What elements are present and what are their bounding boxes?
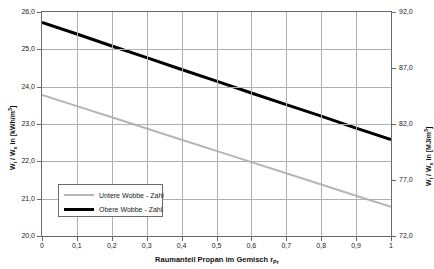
gridline-horizontal xyxy=(42,49,391,50)
tick-mark-left xyxy=(37,161,41,162)
tick-mark-right xyxy=(392,180,396,181)
right-axis-title-sup: 3 xyxy=(423,129,429,132)
legend-label-untere: Untere Wobbe - Zahl xyxy=(99,192,164,199)
tick-mark-x xyxy=(321,237,322,241)
left-axis-title-sup: 3 xyxy=(7,108,13,111)
right-axis-title-w: W xyxy=(425,179,432,186)
tick-mark-left xyxy=(37,87,41,88)
right-axis-title-sub-s: s xyxy=(428,162,434,165)
tick-mark-x xyxy=(112,237,113,241)
tick-mark-left xyxy=(37,199,41,200)
x-axis-tick-label: 0,1 xyxy=(62,242,92,250)
tick-mark-x xyxy=(251,237,252,241)
gray-line-swatch xyxy=(64,194,94,196)
y-axis-left-tick-label: 20,0 xyxy=(8,232,35,240)
gridline-horizontal xyxy=(42,161,391,162)
x-axis-tick-label: 0,6 xyxy=(236,242,266,250)
tick-mark-right xyxy=(392,236,396,237)
y-axis-right-tick-label: 82,0 xyxy=(399,120,427,128)
right-axis-title-mid: / W xyxy=(425,165,432,177)
tick-mark-x xyxy=(42,237,43,241)
tick-mark-x xyxy=(182,237,183,241)
gridline-horizontal xyxy=(42,124,391,125)
legend-label-obere: Obere Wobbe - Zahl xyxy=(99,206,162,213)
chart-figure: 20,021,022,023,024,025,026,0 72,077,082,… xyxy=(0,0,434,269)
left-axis-title-sub-s: s xyxy=(12,146,18,149)
legend-box: Untere Wobbe - Zahl Obere Wobbe - Zahl xyxy=(58,184,163,217)
left-axis-title-mid: / W xyxy=(9,149,16,161)
x-axis-tick-label: 0 xyxy=(27,242,57,250)
x-axis-tick-label: 0,9 xyxy=(341,242,371,250)
x-axis-tick-label: 0,2 xyxy=(97,242,127,250)
y-axis-right-tick-label: 77,0 xyxy=(399,176,427,184)
y-axis-right-tick-label: 92,0 xyxy=(399,8,427,16)
tick-mark-left xyxy=(37,12,41,13)
y-axis-right-tick-label: 72,0 xyxy=(399,232,427,240)
tick-mark-x xyxy=(77,237,78,241)
right-axis-title: Wi / Ws in [MJ/m3] xyxy=(425,127,432,186)
y-axis-left-tick-label: 26,0 xyxy=(8,8,35,16)
tick-mark-x xyxy=(286,237,287,241)
legend-item-untere-wobbe-zahl: Untere Wobbe - Zahl xyxy=(64,189,164,201)
left-axis-title-unit: in [kWh/m xyxy=(9,111,16,146)
right-axis-title-unit: in [MJ/m xyxy=(425,132,432,162)
tick-mark-left xyxy=(37,49,41,50)
tick-mark-left xyxy=(37,124,41,125)
y-axis-left-tick-label: 25,0 xyxy=(8,45,35,53)
y-axis-left-tick-label: 21,0 xyxy=(8,195,35,203)
x-axis-tick-label: 0,5 xyxy=(202,242,232,250)
x-axis-tick-label: 0,7 xyxy=(271,242,301,250)
tick-mark-right xyxy=(392,124,396,125)
tick-mark-x xyxy=(217,237,218,241)
tick-mark-left xyxy=(37,236,41,237)
x-axis-tick-label: 0,4 xyxy=(167,242,197,250)
tick-mark-x xyxy=(356,237,357,241)
tick-mark-right xyxy=(392,68,396,69)
x-axis-title-text: Raumanteil Propan im Gemisch r xyxy=(155,255,273,264)
legend-item-obere-wobbe-zahl: Obere Wobbe - Zahl xyxy=(64,203,162,215)
x-axis-tick-label: 0,8 xyxy=(306,242,336,250)
x-axis-title-sub: Pr xyxy=(273,259,279,265)
gridline-horizontal xyxy=(42,87,391,88)
x-axis-tick-label: 1 xyxy=(376,242,406,250)
left-axis-title: Wi / Ws in [kWh/m3] xyxy=(9,106,16,170)
black-line-swatch xyxy=(64,208,94,211)
y-axis-left-tick-label: 24,0 xyxy=(8,83,35,91)
tick-mark-x xyxy=(391,237,392,241)
left-axis-title-w: W xyxy=(9,163,16,170)
tick-mark-right xyxy=(392,12,396,13)
tick-mark-x xyxy=(147,237,148,241)
x-axis-tick-label: 0,3 xyxy=(132,242,162,250)
x-axis-title: Raumanteil Propan im Gemisch rPr xyxy=(0,255,434,264)
y-axis-right-tick-label: 87,0 xyxy=(399,64,427,72)
